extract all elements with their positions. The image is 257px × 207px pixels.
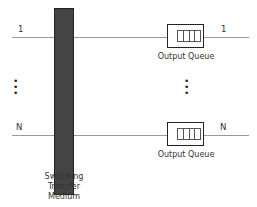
- queue-buffer-icon: [177, 128, 201, 140]
- input-label-1: 1: [18, 24, 23, 34]
- output-queue-1: [167, 24, 204, 48]
- output-label-1: 1: [221, 24, 226, 34]
- input-line-1: [12, 37, 167, 38]
- fabric-label-line: Transfer: [34, 182, 94, 192]
- fabric-label: Switching Transfer Medium: [34, 172, 94, 202]
- output-line-1: [204, 37, 249, 38]
- input-line-n: [12, 135, 167, 136]
- switching-fabric: [54, 8, 74, 195]
- ellipsis-left: •••: [13, 78, 18, 96]
- output-label-n: N: [220, 122, 226, 132]
- fabric-label-line: Switching: [34, 172, 94, 182]
- queue-buffer-icon: [177, 30, 201, 42]
- output-queue-label-1: Output Queue: [154, 52, 218, 61]
- ellipsis-right: •••: [184, 78, 189, 96]
- output-queue-label-n: Output Queue: [154, 150, 218, 159]
- input-label-n: N: [16, 122, 22, 132]
- fabric-label-line: Medium: [34, 192, 94, 202]
- output-queue-n: [167, 122, 204, 146]
- output-line-n: [204, 135, 249, 136]
